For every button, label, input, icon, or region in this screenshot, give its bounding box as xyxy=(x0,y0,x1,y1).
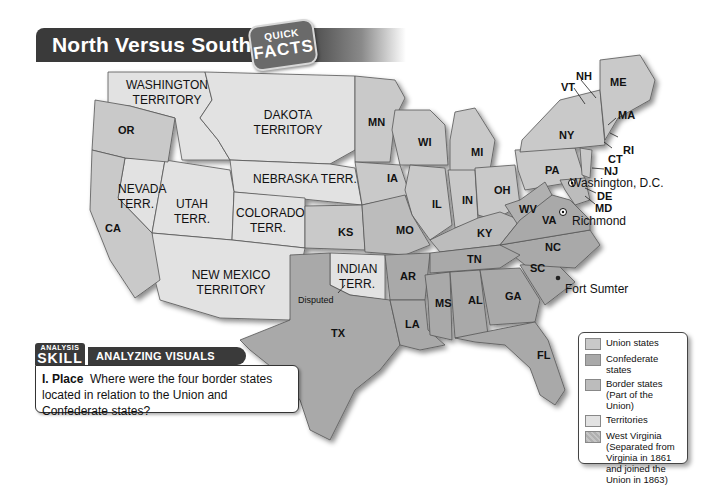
label-mi: MI xyxy=(471,146,483,158)
legend-label: Border states (Part of the Union) xyxy=(606,378,681,411)
label-line: NEBRASKA TERR. xyxy=(253,172,357,187)
state-fl xyxy=(455,322,565,405)
label-oh: OH xyxy=(494,184,511,196)
label-line: NEW MEXICO xyxy=(186,268,276,283)
label-la: LA xyxy=(405,318,420,330)
label-pa: PA xyxy=(545,164,559,176)
label-tx: TX xyxy=(331,327,345,339)
legend-item-territories: Territories xyxy=(585,414,681,427)
legend-label: Confederate states xyxy=(606,353,681,375)
label-washington-territory: WASHINGTON TERRITORY xyxy=(122,78,212,108)
label-line: DAKOTA xyxy=(248,108,328,123)
state-ny xyxy=(520,90,605,152)
label-nc: NC xyxy=(545,241,561,253)
label-ny: NY xyxy=(559,129,574,141)
label-me: ME xyxy=(610,76,627,88)
label-sc: SC xyxy=(530,262,545,274)
label-line: TERRITORY xyxy=(122,93,212,108)
state-mi xyxy=(450,108,495,172)
label-wi: WI xyxy=(418,136,431,148)
label-in: IN xyxy=(462,194,473,206)
legend-label: West Virginia (Separated from Virginia i… xyxy=(606,430,681,485)
label-il: IL xyxy=(432,198,442,210)
label-md: MD xyxy=(595,202,612,214)
label-fort-sumter: Fort Sumter xyxy=(565,282,628,296)
label-ky: KY xyxy=(477,227,492,239)
label-vt: VT xyxy=(561,81,575,93)
label-washington-dc: Washington, D.C. xyxy=(570,176,664,190)
label-line: NEVADA xyxy=(118,182,168,197)
label-or: OR xyxy=(118,124,135,136)
west-virginia-swatch xyxy=(585,431,601,443)
label-ia: IA xyxy=(387,172,398,184)
skill-question: I. Place Where were the four border stat… xyxy=(42,371,292,419)
label-line: TERR. xyxy=(236,221,300,236)
label-ct: CT xyxy=(608,153,623,165)
label-line: TERR. xyxy=(172,212,212,227)
label-richmond: Richmond xyxy=(572,214,626,228)
label-disputed: Disputed xyxy=(298,295,334,305)
label-utah-territory: UTAH TERR. xyxy=(172,197,212,227)
label-line: COLORADO xyxy=(236,206,300,221)
label-dakota-territory: DAKOTA TERRITORY xyxy=(248,108,328,138)
legend-label: Territories xyxy=(606,414,648,425)
label-line: TERRITORY xyxy=(186,283,276,298)
new-england xyxy=(600,55,655,140)
border-swatch xyxy=(585,379,601,391)
state-ks xyxy=(305,205,365,250)
label-line: TERR. xyxy=(118,197,168,212)
label-nebraska-territory: NEBRASKA TERR. xyxy=(253,172,357,187)
map-legend: Union states Confederate states Border s… xyxy=(578,332,688,464)
state-nj xyxy=(580,148,592,178)
analysis-skill-tag: ANALYSIS SKILL xyxy=(35,343,85,365)
label-va: VA xyxy=(542,214,556,226)
label-line: TERRITORY xyxy=(248,123,328,138)
label-de: DE xyxy=(597,190,612,202)
label-ga: GA xyxy=(505,290,522,302)
label-ar: AR xyxy=(400,270,416,282)
label-fl: FL xyxy=(537,349,550,361)
label-line: INDIAN xyxy=(332,262,382,277)
question-label: I. Place xyxy=(42,372,83,386)
label-wv: WV xyxy=(519,203,537,215)
label-line: UTAH xyxy=(172,197,212,212)
label-ks: KS xyxy=(338,226,353,238)
label-ri: RI xyxy=(623,144,634,156)
label-al: AL xyxy=(468,294,483,306)
label-nh: NH xyxy=(576,70,592,82)
legend-item-union: Union states xyxy=(585,337,681,350)
label-mo: MO xyxy=(396,224,414,236)
label-line: WASHINGTON xyxy=(122,78,212,93)
label-mn: MN xyxy=(368,116,385,128)
label-colorado-territory: COLORADO TERR. xyxy=(236,206,300,236)
label-ms: MS xyxy=(435,297,452,309)
legend-item-west-virginia: West Virginia (Separated from Virginia i… xyxy=(585,430,681,485)
union-swatch xyxy=(585,338,601,350)
label-nevada-territory: NEVADA TERR. xyxy=(118,182,168,212)
confederate-swatch xyxy=(585,354,601,366)
label-ca: CA xyxy=(105,222,121,234)
legend-item-confederate: Confederate states xyxy=(585,353,681,375)
label-ma: MA xyxy=(618,109,635,121)
label-tn: TN xyxy=(467,253,482,265)
label-line: TERR. xyxy=(332,277,382,292)
legend-label: Union states xyxy=(606,337,659,348)
territories-swatch xyxy=(585,415,601,427)
skill-heading: ANALYZING VISUALS xyxy=(88,347,246,365)
tag-main: SKILL xyxy=(35,352,85,365)
legend-item-border: Border states (Part of the Union) xyxy=(585,378,681,411)
label-indian-territory: INDIAN TERR. xyxy=(332,262,382,292)
label-new-mexico-territory: NEW MEXICO TERRITORY xyxy=(186,268,276,298)
